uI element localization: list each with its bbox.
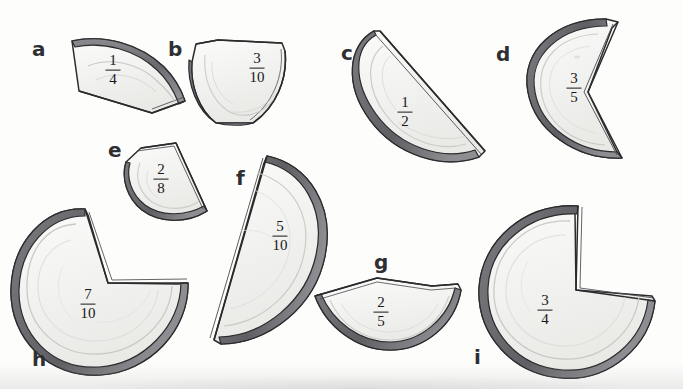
fraction-h-denominator: 10 xyxy=(79,306,98,322)
fraction-b: 3 10 xyxy=(248,51,267,86)
piece-label-c: c xyxy=(341,43,353,63)
fraction-e-numerator: 2 xyxy=(154,162,169,178)
fraction-e-denominator: 8 xyxy=(154,181,169,197)
fraction-d: 3 5 xyxy=(567,71,582,106)
fraction-i-denominator: 4 xyxy=(538,312,553,328)
fraction-g: 2 5 xyxy=(374,295,389,330)
fraction-b-numerator: 3 xyxy=(248,51,267,67)
fraction-a-numerator: 1 xyxy=(106,53,121,69)
fraction-g-numerator: 2 xyxy=(374,295,389,311)
piece-label-i: i xyxy=(474,347,481,367)
fraction-a-denominator: 4 xyxy=(106,72,121,88)
piece-label-a: a xyxy=(32,39,46,59)
piece-label-b: b xyxy=(168,39,182,59)
fraction-i: 3 4 xyxy=(538,293,553,328)
fraction-e: 2 8 xyxy=(154,162,169,197)
piece-label-g: g xyxy=(374,252,388,272)
fraction-i-numerator: 3 xyxy=(538,293,553,309)
fraction-g-denominator: 5 xyxy=(374,314,389,330)
fraction-d-numerator: 3 xyxy=(567,71,582,87)
fraction-b-denominator: 10 xyxy=(248,70,267,86)
piece-label-h: h xyxy=(32,349,46,369)
fraction-f: 5 10 xyxy=(271,219,290,254)
fraction-h-numerator: 7 xyxy=(79,287,98,303)
fraction-c-numerator: 1 xyxy=(398,95,413,111)
fraction-f-numerator: 5 xyxy=(271,219,290,235)
piece-label-d: d xyxy=(496,44,510,64)
fraction-c-denominator: 2 xyxy=(398,114,413,130)
fraction-h: 7 10 xyxy=(79,287,98,322)
piece-label-e: e xyxy=(108,140,122,160)
worksheet-canvas: a b c d e f g h i 1 4 3 10 1 2 3 5 2 8 5… xyxy=(0,0,683,389)
piece-b-drawing xyxy=(189,40,286,125)
fraction-c: 1 2 xyxy=(398,95,413,130)
piece-label-f: f xyxy=(236,168,245,188)
piece-f-drawing xyxy=(210,156,327,344)
piece-c-drawing xyxy=(352,31,485,162)
piece-i-drawing xyxy=(479,206,655,378)
fraction-a: 1 4 xyxy=(106,53,121,88)
fraction-d-denominator: 5 xyxy=(567,90,582,106)
fraction-f-denominator: 10 xyxy=(271,238,290,254)
